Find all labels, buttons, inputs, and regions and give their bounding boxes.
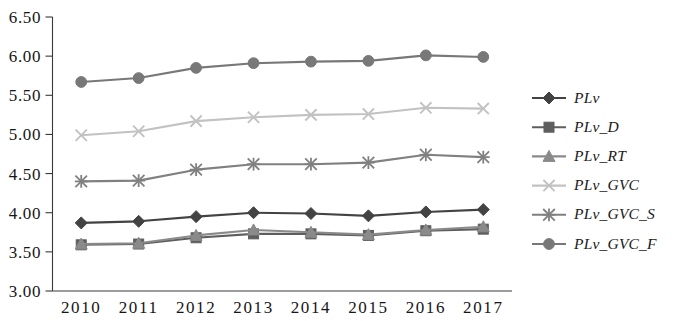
x-tick-label: 2014 xyxy=(291,298,331,317)
data-point-marker xyxy=(247,158,260,171)
data-point-marker xyxy=(306,56,317,67)
legend-marker-icon xyxy=(543,208,556,221)
chart-legend: PLvPLv_DPLv_RTPLv_GVCPLv_GVC_SPLv_GVC_F xyxy=(532,89,657,252)
y-tick-label: 6.50 xyxy=(9,8,41,27)
x-tick-label: 2017 xyxy=(463,298,503,317)
legend-item-plv[interactable]: PLv xyxy=(532,89,600,106)
data-point-marker xyxy=(133,215,145,227)
series-plv xyxy=(75,204,489,229)
data-point-marker xyxy=(75,175,88,188)
legend-item-plv-d[interactable]: PLv_D xyxy=(532,118,619,135)
legend-marker-icon xyxy=(544,239,555,250)
data-point-marker xyxy=(305,158,318,171)
x-axis: 20102011201220132014201520162017 xyxy=(53,291,513,317)
legend-label: PLv_GVC_F xyxy=(573,235,657,252)
data-point-marker xyxy=(478,52,489,63)
y-tick-label: 5.00 xyxy=(9,125,41,144)
y-tick-label: 6.00 xyxy=(9,47,41,66)
series-plv-gvc xyxy=(76,102,489,141)
line-chart: 3.003.504.004.505.005.506.006.50 2010201… xyxy=(0,0,674,321)
data-point-marker xyxy=(477,151,490,164)
legend-label: PLv_RT xyxy=(573,147,627,164)
x-tick-label: 2015 xyxy=(348,298,388,317)
y-tick-label: 5.50 xyxy=(9,86,41,105)
legend-item-plv-rt[interactable]: PLv_RT xyxy=(532,147,627,164)
data-point-marker xyxy=(420,50,431,61)
x-tick-label: 2010 xyxy=(61,298,101,317)
y-tick-label: 4.00 xyxy=(9,204,41,223)
legend-marker-icon xyxy=(543,92,555,104)
data-point-marker xyxy=(248,58,259,69)
data-point-marker xyxy=(305,207,317,219)
data-point-marker xyxy=(191,62,202,73)
x-tick-labels: 20102011201220132014201520162017 xyxy=(61,298,503,317)
data-point-marker xyxy=(420,206,432,218)
data-point-marker xyxy=(190,163,203,176)
series-plv-gvc-s xyxy=(75,148,490,187)
y-tick-label: 3.50 xyxy=(9,243,41,262)
legend-item-plv-gvc-s[interactable]: PLv_GVC_S xyxy=(532,205,655,222)
data-point-marker xyxy=(75,217,87,229)
series-layer xyxy=(75,50,490,250)
legend-item-plv-gvc-f[interactable]: PLv_GVC_F xyxy=(532,235,657,252)
data-point-marker xyxy=(363,55,374,66)
legend-item-plv-gvc[interactable]: PLv_GVC xyxy=(532,176,640,193)
data-point-marker xyxy=(133,73,144,84)
legend-label: PLv_GVC xyxy=(573,176,640,193)
x-tick-label: 2016 xyxy=(406,298,446,317)
y-axis: 3.003.504.004.505.005.506.006.50 xyxy=(9,8,53,301)
chart-canvas: 3.003.504.004.505.005.506.006.50 2010201… xyxy=(0,0,674,321)
data-point-marker xyxy=(419,148,432,161)
data-point-marker xyxy=(362,156,375,169)
data-point-marker xyxy=(132,174,145,187)
x-tick-label: 2013 xyxy=(233,298,273,317)
series-plv-gvc-f xyxy=(76,50,489,87)
y-tick-marks xyxy=(46,17,53,291)
data-point-marker xyxy=(248,207,260,219)
legend-label: PLv xyxy=(573,89,600,106)
legend-marker-icon xyxy=(544,122,554,132)
data-point-marker xyxy=(190,211,202,223)
x-tick-label: 2012 xyxy=(176,298,216,317)
data-point-marker xyxy=(477,204,489,216)
y-tick-labels: 3.003.504.004.505.005.506.006.50 xyxy=(9,8,41,301)
data-point-marker xyxy=(76,77,87,88)
y-tick-label: 3.00 xyxy=(9,282,41,301)
legend-label: PLv_D xyxy=(573,118,619,135)
y-tick-label: 4.50 xyxy=(9,165,41,184)
x-tick-label: 2011 xyxy=(119,298,159,317)
legend-label: PLv_GVC_S xyxy=(573,205,655,222)
data-point-marker xyxy=(362,210,374,222)
